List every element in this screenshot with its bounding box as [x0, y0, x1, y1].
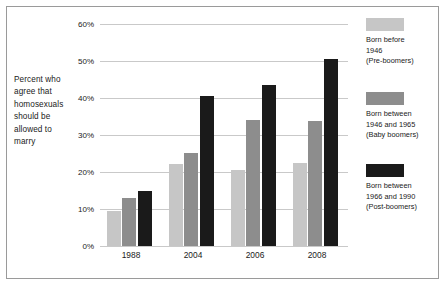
legend-label: Born between1966 and 1990(Post-boomers)	[366, 181, 434, 213]
chart-figure: Percent whoagree thathomosexualsshould b…	[0, 0, 445, 285]
bar-group	[293, 24, 338, 246]
bar	[169, 164, 183, 246]
legend-label-line: Born between	[366, 181, 434, 192]
x-axis-tick-label: 2008	[286, 250, 348, 260]
bar	[293, 163, 307, 246]
bar	[246, 120, 260, 246]
y-axis-caption-line: Percent who	[14, 74, 92, 86]
bar	[324, 59, 338, 246]
bar	[122, 198, 136, 246]
bar	[262, 85, 276, 246]
legend-swatch	[366, 164, 404, 177]
bar	[138, 191, 152, 246]
y-axis-tick-label: 10%	[54, 205, 94, 214]
legend-label-line: Born before	[366, 35, 434, 46]
y-axis-tick-label: 0%	[54, 242, 94, 251]
legend-label-line: (Post-boomers)	[366, 202, 434, 213]
legend-swatch	[366, 92, 404, 105]
legend-label: Born between1946 and 1965(Baby boomers)	[366, 109, 434, 141]
x-axis-tick-label: 2004	[162, 250, 224, 260]
legend-label-line: (Baby boomers)	[366, 130, 434, 141]
y-axis-tick-label: 40%	[54, 94, 94, 103]
legend-label: Born before1946(Pre-boomers)	[366, 35, 434, 67]
y-axis-tick-label: 60%	[54, 20, 94, 29]
legend-entry[interactable]: Born before1946(Pre-boomers)	[366, 18, 434, 67]
legend-label-line: (Pre-boomers)	[366, 56, 434, 67]
y-axis-caption-line: should be	[14, 111, 92, 123]
legend-label-line: 1946	[366, 46, 434, 57]
bar-group	[231, 24, 276, 246]
bar	[308, 121, 322, 246]
x-axis-tick-label: 1988	[100, 250, 162, 260]
legend-label-line: 1966 and 1990	[366, 192, 434, 203]
x-axis-tick-label: 2006	[224, 250, 286, 260]
bar-group	[107, 24, 152, 246]
plot-area: 0%10%20%30%40%50%60%1988200420062008	[100, 24, 348, 246]
bar	[231, 170, 245, 246]
legend-label-line: 1946 and 1965	[366, 120, 434, 131]
y-axis-tick-label: 50%	[54, 57, 94, 66]
legend-label-line: Born between	[366, 109, 434, 120]
bar-group	[169, 24, 214, 246]
legend-swatch	[366, 18, 404, 31]
x-axis-line	[100, 246, 348, 247]
legend-entry[interactable]: Born between1946 and 1965(Baby boomers)	[366, 92, 434, 141]
bar	[200, 96, 214, 246]
legend-entry[interactable]: Born between1966 and 1990(Post-boomers)	[366, 164, 434, 213]
y-axis-tick-label: 30%	[54, 131, 94, 140]
y-axis-tick-label: 20%	[54, 168, 94, 177]
bar	[184, 153, 198, 246]
bar	[107, 211, 121, 246]
